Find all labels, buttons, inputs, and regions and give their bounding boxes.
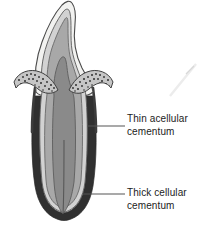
label-thin-acellular-cementum: Thin acellular cementum: [127, 113, 207, 138]
figure-canvas: Thin acellular cementum Thick cellular c…: [0, 0, 210, 228]
label-thick-cellular-cementum: Thick cellular cementum: [127, 187, 207, 212]
scan-artifact-streak: [170, 64, 196, 96]
